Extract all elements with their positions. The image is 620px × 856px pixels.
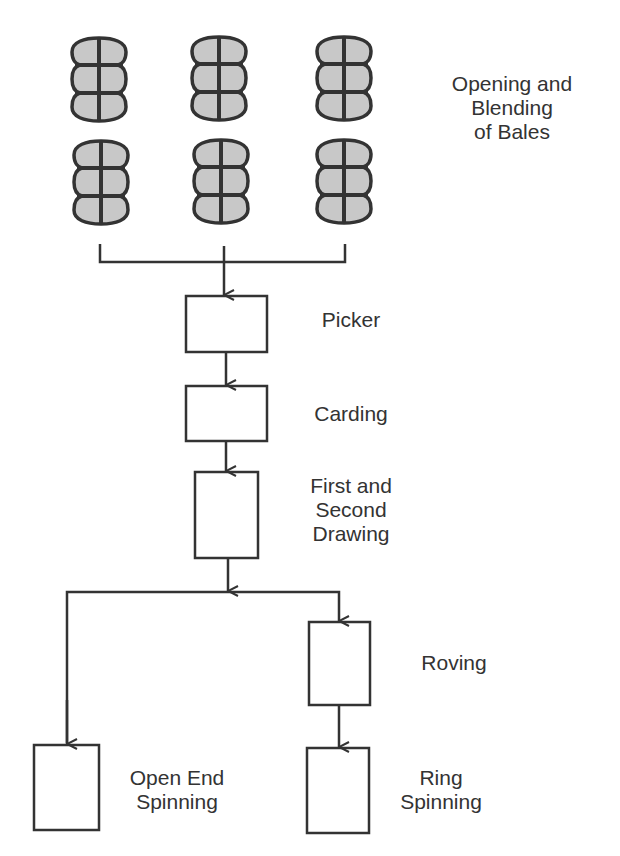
open-end-spinning-box [34,745,99,830]
carding-box [186,386,267,441]
ring-spinning-box [307,748,369,833]
label-picker: Picker [306,308,396,332]
cotton-bale-icon [74,141,128,224]
cotton-bale-icon [192,37,246,120]
label-drawing: First and Second Drawing [286,474,416,546]
split-line [67,592,339,743]
drawing-box [195,472,258,558]
cotton-bale-icon [317,140,371,223]
picker-box [186,296,267,352]
label-opening-blending: Opening and Blending of Bales [432,72,592,144]
cotton-bale-icon [72,38,126,121]
bale-collector-line [100,244,345,262]
label-open-end-spinning: Open End Spinning [112,766,242,814]
cotton-bale-icon [194,140,248,223]
cotton-bale-icon [317,37,371,120]
bale-group [72,37,371,224]
label-carding: Carding [296,402,406,426]
label-ring-spinning: Ring Spinning [386,766,496,814]
label-roving: Roving [404,651,504,675]
roving-box [309,622,370,705]
